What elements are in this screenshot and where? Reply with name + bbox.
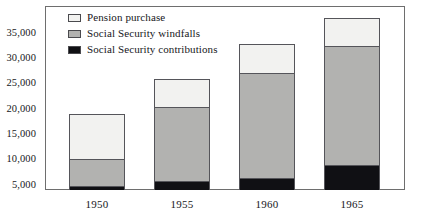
bar-segment-pension-1965 [324, 18, 380, 47]
y-tick-label-15000: 15,000 [7, 129, 36, 140]
x-tick-label-1960: 1960 [227, 198, 307, 210]
legend-item-social-security-windfalls: Social Security windfalls [68, 27, 218, 40]
x-tick-label-1955: 1955 [142, 198, 222, 210]
bar-segment-pension-1955 [154, 79, 210, 108]
bar-segment-contributions-1955 [154, 182, 210, 190]
bar-stack-1960 [239, 44, 295, 190]
y-tick-label-10000: 10,000 [7, 154, 36, 165]
y-tick-label-25000: 25,000 [7, 78, 36, 89]
legend-swatch-windfalls-icon [68, 30, 81, 38]
legend-label-social-security-contributions: Social Security contributions [87, 44, 218, 55]
bar-segment-contributions-1960 [239, 179, 295, 190]
bar-stack-1950 [69, 114, 125, 190]
y-tick-label-30000: 30,000 [7, 53, 36, 64]
stacked-bar-chart: 35,000 30,000 25,000 20,000 15,000 10,00… [0, 0, 425, 220]
bar-segment-pension-1960 [239, 44, 295, 73]
y-axis: 35,000 30,000 25,000 20,000 15,000 10,00… [0, 0, 45, 220]
bar-segment-pension-1950 [69, 114, 125, 160]
legend-swatch-contributions-icon [68, 46, 81, 54]
chart-legend: Pension purchase Social Security windfal… [68, 11, 218, 56]
bar-stack-1965 [324, 18, 380, 190]
bar-segment-windfalls-1965 [324, 47, 380, 166]
x-tick-label-1965: 1965 [312, 198, 392, 210]
bar-segment-windfalls-1950 [69, 160, 125, 187]
legend-label-pension-purchase: Pension purchase [87, 12, 165, 23]
legend-item-pension-purchase: Pension purchase [68, 11, 218, 24]
x-tick-label-1950: 1950 [57, 198, 137, 210]
bar-segment-windfalls-1955 [154, 108, 210, 183]
legend-label-social-security-windfalls: Social Security windfalls [87, 28, 200, 39]
bar-stack-1955 [154, 79, 210, 190]
y-tick-label-20000: 20,000 [7, 103, 36, 114]
y-tick-label-5000: 5,000 [12, 179, 36, 190]
y-tick-label-35000: 35,000 [7, 27, 36, 38]
bar-segment-windfalls-1960 [239, 74, 295, 179]
legend-swatch-pension-icon [68, 14, 81, 22]
legend-item-social-security-contributions: Social Security contributions [68, 43, 218, 56]
bar-segment-contributions-1965 [324, 166, 380, 190]
x-axis: 1950 1955 1960 1965 [45, 190, 405, 220]
